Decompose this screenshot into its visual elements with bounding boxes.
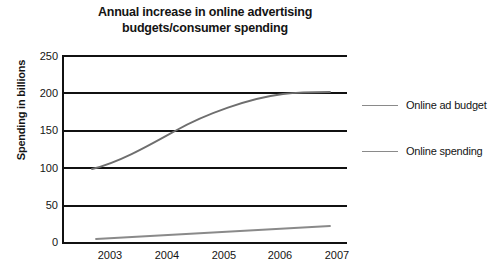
- grid-lines: [62, 56, 347, 243]
- chart-legend: Online ad budget Online spending: [362, 96, 498, 188]
- legend-item-online-spending: Online spending: [362, 142, 498, 160]
- legend-label-online-ad-budget: Online ad budget: [406, 99, 487, 111]
- legend-item-online-ad-budget: Online ad budget: [362, 96, 498, 114]
- series-line-online-spending: [96, 226, 330, 239]
- legend-swatch-icon-online-spending: [362, 151, 398, 152]
- chart-container: Annual increase in online advertising bu…: [0, 0, 499, 280]
- legend-swatch-icon-online-ad-budget: [362, 105, 398, 106]
- legend-label-online-spending: Online spending: [406, 145, 483, 157]
